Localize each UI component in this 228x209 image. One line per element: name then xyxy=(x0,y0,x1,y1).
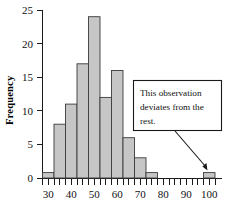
x-axis-tick-labels: 30 40 50 60 70 80 90 100 xyxy=(43,188,218,200)
x-tick-label-100: 100 xyxy=(201,188,218,200)
x-tick-label-80: 80 xyxy=(158,188,170,200)
y-tick-label-5: 5 xyxy=(28,138,34,150)
bar-bin-27.5-32.5 xyxy=(43,173,55,178)
bar-bin-97.5-102.5-outlier xyxy=(204,173,216,178)
outlier-callout-box: This observation deviates from the rest. xyxy=(134,81,222,131)
bar-bin-62.5-67.5 xyxy=(123,138,135,178)
y-axis-tick-labels: 0 5 10 15 20 25 xyxy=(22,4,34,184)
y-tick-label-15: 15 xyxy=(22,71,34,83)
bar-bin-42.5-47.5 xyxy=(77,64,89,178)
x-tick-label-30: 30 xyxy=(43,188,55,200)
y-tick-label-25: 25 xyxy=(22,4,34,16)
y-tick-label-0: 0 xyxy=(28,172,34,184)
bar-bin-67.5-72.5 xyxy=(135,158,147,178)
bar-bin-57.5-62.5 xyxy=(112,71,124,179)
bar-bin-37.5-42.5 xyxy=(66,104,78,178)
outlier-annotation-leader xyxy=(175,131,208,171)
bar-bin-32.5-37.5 xyxy=(54,124,66,178)
x-tick-label-50: 50 xyxy=(89,188,101,200)
x-tick-label-90: 90 xyxy=(181,188,193,200)
callout-line-2: deviates from the xyxy=(140,102,204,112)
histogram-figure: 0 5 10 15 20 25 Frequency xyxy=(0,0,228,209)
y-tick-label-10: 10 xyxy=(22,105,34,117)
bar-bin-52.5-57.5 xyxy=(100,97,112,178)
callout-line-1: This observation xyxy=(140,88,202,98)
y-tick-label-20: 20 xyxy=(22,38,34,50)
callout-line-3: rest. xyxy=(140,116,156,126)
y-axis-label: Frequency xyxy=(4,75,15,125)
x-tick-label-70: 70 xyxy=(135,188,147,200)
leader-line xyxy=(175,131,206,167)
x-axis-ticks xyxy=(43,179,216,185)
bar-bin-72.5-77.5 xyxy=(146,173,158,178)
bar-bin-47.5-52.5 xyxy=(89,17,101,178)
x-tick-label-60: 60 xyxy=(112,188,124,200)
histogram-chart: 0 5 10 15 20 25 Frequency xyxy=(0,0,228,209)
y-axis-ticks xyxy=(37,10,43,178)
x-tick-label-40: 40 xyxy=(66,188,78,200)
